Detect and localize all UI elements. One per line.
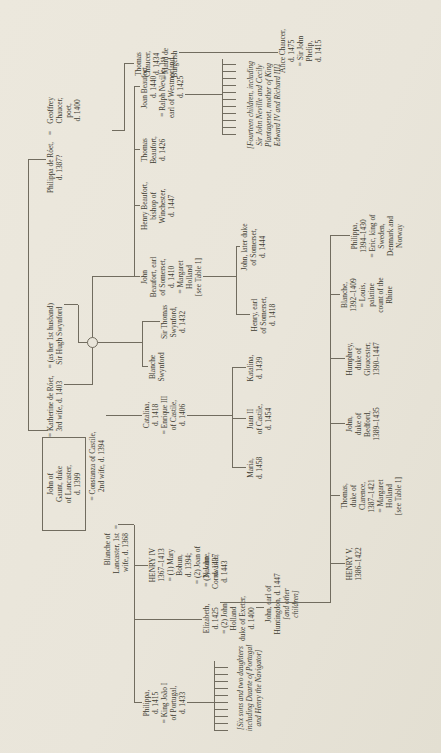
connector-line — [64, 304, 78, 305]
node-john-of-huntingdon: John, earl ofHuntingdon, d. 1447 — [264, 549, 282, 659]
node-henry-v: HENRY V,1386–1422 — [345, 525, 363, 603]
connector-line — [28, 430, 48, 431]
node-john-duke-of-somerset: John, later dukeof Somerset,d. 1444 — [240, 209, 267, 285]
connector-line — [203, 276, 236, 277]
connector-line — [187, 415, 232, 416]
node-alice-chaucer: Alice Chaucer,d. 1475= Sir JohnPhelip,d.… — [278, 19, 323, 83]
family-tree-rotated-stage: John ofGaunt, dukeof Lancaster,d. 1399 B… — [0, 0, 441, 753]
couple-philippa-geoffrey: Philippa de Róet,d. 1387? = GeoffreyChau… — [46, 97, 82, 193]
connector-line — [232, 467, 246, 468]
connector-line — [92, 276, 134, 277]
connector-line — [28, 159, 29, 431]
connector-line — [112, 130, 124, 131]
connector-line — [134, 525, 135, 703]
couple-katherine-hugh: = Katherine de Róet,3rd wife, d. 1403 = … — [46, 303, 64, 437]
connector-line — [330, 358, 345, 359]
node-juan-ii: Juan IIof Castile,d. 1454 — [246, 393, 273, 445]
connector-line — [236, 246, 240, 247]
node-henry-earl-of-somerset: Henry, earlof Somerset,d. 1418 — [250, 287, 277, 343]
connector-line — [134, 86, 140, 87]
node-humphrey-of-gloucester: Humphrey,duke ofGloucester,1390–1447 — [345, 327, 381, 391]
connector-line — [134, 702, 142, 703]
node-john-cornwaille: = (3) JohnCornwaille,d. 1443 — [202, 554, 229, 589]
marriage-equals-blanche: = — [112, 525, 121, 529]
connector-line — [220, 602, 330, 603]
node-maria: Maria,d. 1458 — [246, 447, 264, 489]
node-philippa-de-roet: Philippa de Róet,d. 1387? — [46, 142, 64, 193]
connector-line — [236, 247, 237, 315]
node-john-of-bedford: John,duke ofBedford,1389–1435 — [345, 395, 381, 453]
node-katherine-de-roet: = Katherine de Róet,3rd wife, d. 1403 — [46, 375, 64, 437]
many-children-comb — [222, 59, 236, 135]
node-blanche-1392: Blanche,1392–1409= Louis,palatinecount o… — [340, 265, 394, 325]
many-children-comb — [214, 661, 228, 731]
connector-line — [134, 565, 148, 566]
node-blanche-swynford: BlancheSwynford — [148, 345, 166, 389]
connector-line — [28, 159, 46, 160]
node-john-of-gaunt: John ofGaunt, dukeof Lancaster,d. 1399 — [42, 437, 86, 531]
node-catalina: Catalina,d. 1418= Enrique IIIof Castile,… — [142, 389, 187, 441]
node-hugh-swynford: = (as her 1st husband)Sir Hugh Swynford — [46, 303, 64, 368]
connector-line — [134, 205, 140, 206]
node-thomas-of-clarence: Thomas,duke ofClarence,1387–1421= Margar… — [340, 463, 403, 529]
annotation-six-sons: [Six sons and two daughtersincluding Dua… — [236, 623, 263, 753]
connector-line — [330, 294, 340, 295]
node-blanche-of-lancaster: Blanche ofLancaster, 1stwife, d. 1368 — [103, 533, 130, 605]
connector-line — [330, 423, 345, 424]
connector-line — [232, 418, 246, 419]
node-katalina: Katalina,d. 1439 — [246, 345, 264, 391]
connector-line — [142, 366, 148, 367]
marriage-equals-geoffrey: = — [46, 131, 55, 135]
line-crossing-loop — [87, 337, 98, 348]
connector-line — [142, 322, 143, 367]
node-geoffrey-chaucer: GeoffreyChaucer,poet,d. 1400 — [46, 97, 82, 124]
connector-line — [92, 277, 93, 385]
book-page: John ofGaunt, dukeof Lancaster,d. 1399 B… — [0, 0, 441, 753]
connector-line — [134, 87, 135, 277]
node-thomas-swynford: Sir ThomasSwynford,d. 1432 — [160, 297, 187, 347]
node-constanza-of-castile: = Constanza of Castile,2nd wife, d. 1394 — [88, 411, 106, 521]
connector-line — [134, 619, 202, 620]
node-joan-beaufort: Joan Beaufort,d. 1440= Ralph Neville, 1s… — [140, 45, 185, 129]
node-henry-beaufort: Henry Beaufort,bishop ofWinchester,d. 14… — [140, 173, 176, 239]
node-thomas-beaufort: ThomasBeaufort,d. 1426 — [140, 127, 167, 173]
connector-line — [256, 607, 264, 608]
node-philippa-1394: Philippa,1394–1430= Eric, king ofSweden,… — [350, 199, 404, 273]
connector-line — [124, 64, 125, 131]
connector-line — [187, 702, 214, 703]
connector-line — [236, 314, 250, 315]
connector-line — [330, 236, 331, 603]
annotation-huntingdon-other-children: [and otherchildren] — [282, 549, 300, 659]
connector-line — [134, 149, 140, 150]
connector-line — [179, 52, 278, 53]
node-philippa-of-portugal: Philippa,d. 1415= King João Iof Portugal… — [142, 669, 187, 737]
connector-line — [330, 235, 350, 236]
connector-line — [78, 305, 79, 343]
connector-line — [134, 276, 140, 277]
connector-line — [124, 63, 134, 64]
connector-line — [118, 524, 134, 525]
connector-line — [330, 495, 340, 496]
connector-line — [142, 321, 160, 322]
connector-line — [330, 563, 345, 564]
connector-line — [232, 367, 246, 368]
connector-line — [106, 415, 142, 416]
connector-line — [185, 94, 222, 95]
annotation-fourteen-children: [Fourteen children, includingSir John Ne… — [246, 49, 282, 161]
connector-line — [64, 384, 92, 385]
